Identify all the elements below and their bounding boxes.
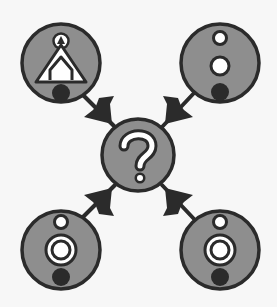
node-top-right [181, 24, 259, 102]
two-circles-dot-glyph-icon [211, 32, 229, 102]
node-bottom-left [22, 211, 100, 289]
node-top-left [22, 24, 100, 102]
center-node [102, 119, 174, 191]
diagram-svg [0, 0, 277, 307]
diagram-canvas [0, 0, 277, 307]
node-bottom-right [181, 211, 259, 289]
